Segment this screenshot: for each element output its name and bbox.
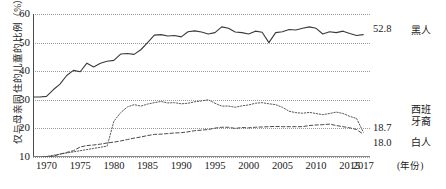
legend-item-西班牙裔: 西班牙裔 [411, 104, 431, 127]
x-axis-tick-label: 1980 [103, 160, 124, 172]
y-axis-tick-label: 60 [0, 8, 30, 19]
x-axis-tick-label: 2017 [353, 160, 374, 172]
y-axis-tick-label: 30 [0, 94, 30, 105]
series-layer [33, 14, 370, 157]
x-axis-tick-label: 2000 [238, 160, 259, 172]
plot-area [33, 14, 370, 157]
x-axis-tick-label: 1995 [204, 160, 225, 172]
legend-item-label: 白人 [411, 137, 431, 148]
x-axis-tick-label: 1985 [137, 160, 158, 172]
series-line-西班牙裔 [33, 100, 363, 157]
legend-item-白人: 白人 [411, 137, 431, 148]
line-chart: 仅与母亲同住的儿童的比例（%） 605040302010 52.818.718.… [0, 0, 446, 189]
y-axis-tick-label: 40 [0, 65, 30, 76]
gridline [33, 157, 370, 158]
x-axis-tick-label: 1990 [171, 160, 192, 172]
end-value-label-白人: 18.0 [373, 137, 391, 148]
x-axis-tick-label: 2010 [306, 160, 327, 172]
x-axis-tick-labels: 1970197519801985199019952000200520102015… [0, 160, 446, 176]
y-axis-tick-label: 20 [0, 122, 30, 133]
end-value-label-西班牙裔: 18.7 [373, 122, 391, 133]
y-axis-tick-label: 50 [0, 37, 30, 48]
x-axis-tick-label: 1975 [70, 160, 91, 172]
series-line-白人 [33, 124, 363, 157]
series-line-黑人 [33, 27, 363, 97]
x-axis-tick-label: 1970 [36, 160, 57, 172]
legend-item-label: 牙裔 [411, 116, 431, 128]
legend-item-黑人: 黑人 [411, 25, 431, 36]
legend-item-label: 西班 [411, 104, 431, 116]
legend-item-label: 黑人 [411, 25, 431, 36]
x-axis-unit-label: (年份) [397, 160, 423, 172]
end-value-label-黑人: 52.8 [373, 23, 391, 34]
x-axis-tick-label: 2005 [272, 160, 293, 172]
